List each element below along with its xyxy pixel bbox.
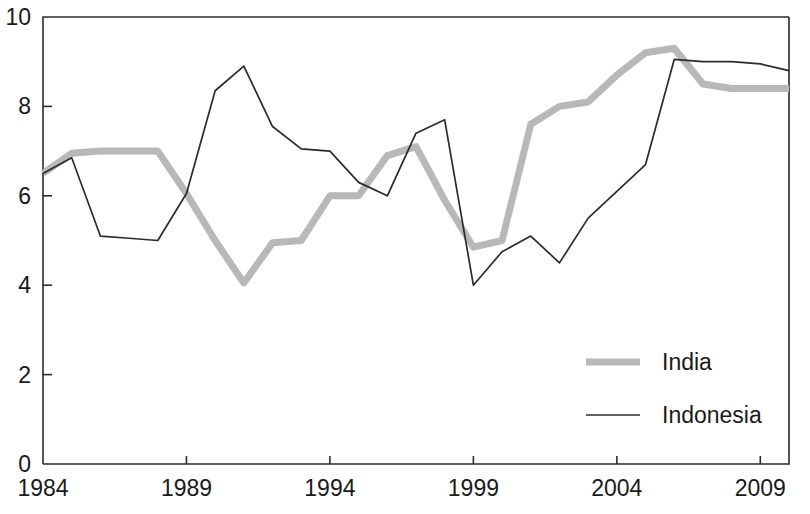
- y-tick-label: 8: [18, 93, 31, 119]
- y-tick-label: 2: [18, 362, 31, 388]
- y-tick-label: 4: [18, 272, 31, 298]
- chart-legend: India Indonesia: [586, 349, 762, 428]
- legend-label-india: India: [662, 349, 712, 375]
- x-tick-label: 2009: [735, 475, 786, 501]
- line-chart-figure: 198419891994199920042009 0246810 India I…: [0, 0, 810, 514]
- y-axis-tick-marks: [43, 106, 52, 374]
- series-line-indonesia: [43, 59, 789, 285]
- legend-label-indonesia: Indonesia: [662, 402, 762, 428]
- x-axis-tick-marks: [186, 456, 760, 464]
- chart-canvas: 198419891994199920042009 0246810 India I…: [0, 0, 810, 514]
- y-axis-tick-labels: 0246810: [5, 4, 31, 477]
- y-tick-label: 10: [5, 4, 31, 30]
- x-tick-label: 2004: [591, 475, 642, 501]
- series-line-india: [43, 48, 789, 283]
- x-tick-label: 1994: [304, 475, 355, 501]
- data-series-group: [43, 48, 789, 285]
- x-tick-label: 1999: [448, 475, 499, 501]
- x-tick-label: 1984: [17, 475, 68, 501]
- x-tick-label: 1989: [161, 475, 212, 501]
- y-tick-label: 6: [18, 183, 31, 209]
- x-axis-tick-labels: 198419891994199920042009: [17, 475, 785, 501]
- y-tick-label: 0: [18, 451, 31, 477]
